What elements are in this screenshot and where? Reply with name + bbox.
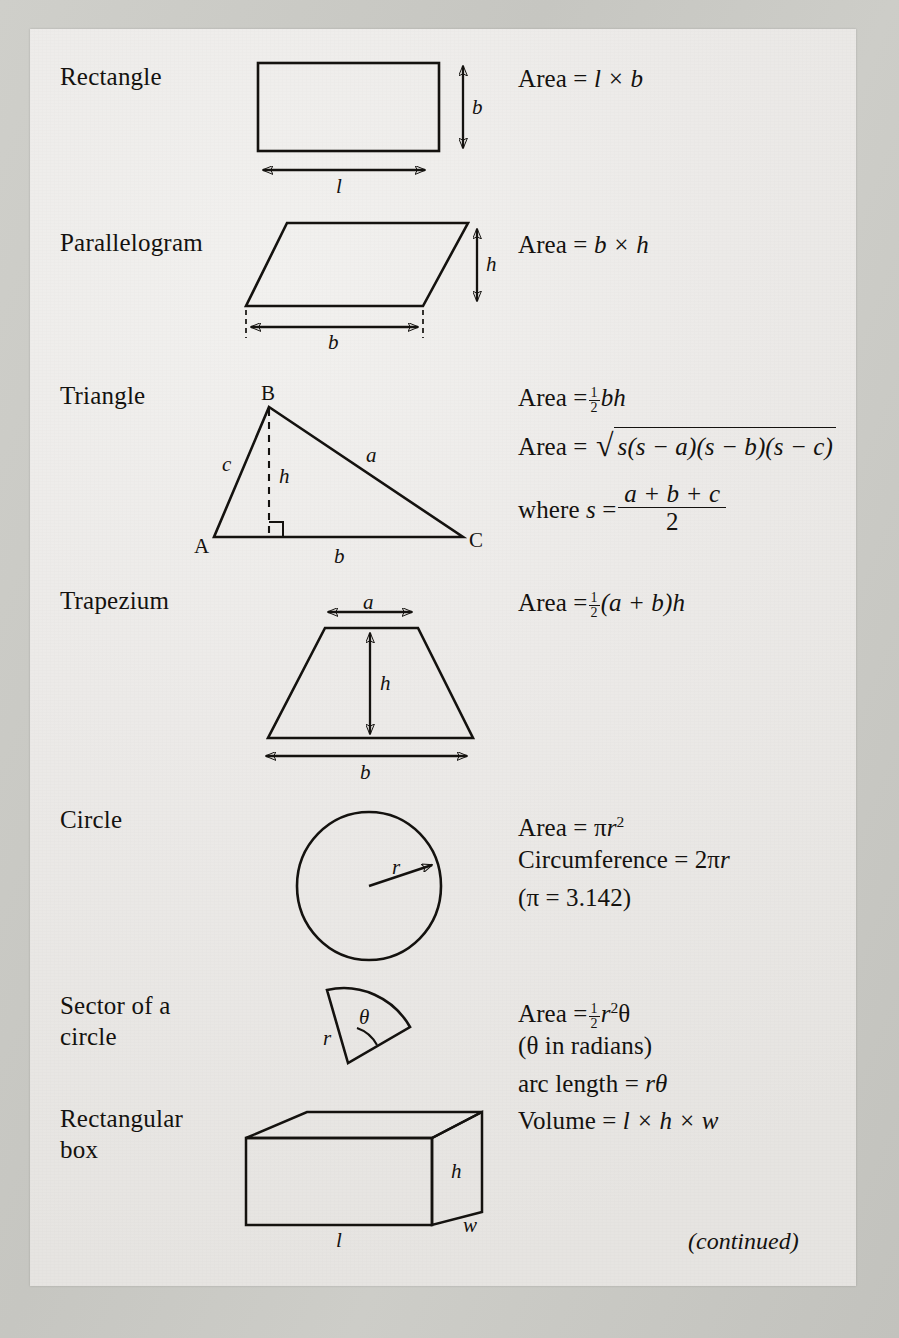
- equals-sign: =: [573, 589, 587, 616]
- formula-sector-radians-note: (θ in radians): [518, 1029, 652, 1063]
- formula-circle-circumference: Circumference = 2πr: [518, 843, 730, 877]
- shape-name-box-line1: Rectangular: [60, 1104, 183, 1134]
- fraction-one-half: 12: [589, 386, 600, 416]
- equals-sign: =: [573, 384, 587, 411]
- equals-sign: =: [573, 433, 587, 460]
- shape-name-box-line2: box: [60, 1135, 98, 1165]
- shape-name-circle: Circle: [60, 805, 122, 835]
- dimension-label-h: h: [486, 252, 497, 277]
- dimension-label-h: h: [380, 671, 391, 696]
- term-minus-c: − c): [790, 433, 833, 460]
- expr-b-times-h: b × h: [594, 231, 649, 258]
- printed-page: [30, 29, 856, 1286]
- dimension-label-l: l: [336, 1228, 342, 1253]
- equals-sign: =: [573, 1000, 587, 1027]
- dimension-label-w: w: [463, 1213, 477, 1238]
- formula-triangle-area-heron: Area = √s(s − a)(s − b)(s − c): [518, 427, 836, 464]
- equals-sign: =: [573, 231, 587, 258]
- dimension-label-b: b: [360, 760, 371, 785]
- formula-triangle-semiperimeter: where s =a + b + c2: [518, 480, 728, 535]
- numeral-two: 2: [695, 846, 708, 873]
- expr-l-h-w: l × h × w: [623, 1107, 719, 1134]
- fraction-denominator: 2: [589, 400, 600, 415]
- radical-icon: √: [596, 428, 614, 462]
- formula-lead: Volume: [518, 1107, 596, 1134]
- term-minus-a: − a)(s: [652, 433, 715, 460]
- shape-name-trapezium: Trapezium: [60, 586, 169, 616]
- exponent-two: 2: [616, 813, 624, 830]
- formula-lead: Area: [518, 384, 567, 411]
- formula-sector-arc-length: arc length = rθ: [518, 1067, 667, 1101]
- formula-circle-area: Area = πr2: [518, 805, 624, 845]
- square-root-group: √s(s − a)(s − b)(s − c): [594, 427, 836, 464]
- variable-r: r: [607, 814, 617, 841]
- shape-name-parallelogram: Parallelogram: [60, 228, 203, 258]
- term-s-open: s(s: [618, 433, 646, 460]
- expr-a-plus-b-h: (a + b)h: [601, 589, 685, 616]
- fraction-one-half: 12: [589, 1002, 600, 1032]
- expr-r-theta: rθ: [645, 1070, 667, 1097]
- dimension-label-a: a: [363, 590, 374, 615]
- vertex-label-c: C: [469, 528, 483, 553]
- equals-sign: =: [625, 1070, 639, 1097]
- equals-sign: =: [602, 1107, 616, 1134]
- shape-name-rectangle: Rectangle: [60, 62, 162, 92]
- formula-trapezium-area: Area =12(a + b)h: [518, 586, 685, 620]
- side-label-a: a: [366, 443, 377, 468]
- fraction-numerator: 1: [589, 1002, 600, 1016]
- radicand: s(s − a)(s − b)(s − c): [614, 427, 836, 464]
- shape-name-triangle: Triangle: [60, 381, 145, 411]
- variable-r: r: [720, 846, 730, 873]
- equals-sign: =: [573, 65, 587, 92]
- fraction-numerator: a + b + c: [618, 480, 726, 507]
- formula-lead: Area: [518, 589, 567, 616]
- side-label-b: b: [334, 544, 345, 569]
- continued-note: (continued): [688, 1228, 799, 1255]
- fraction-one-half: 12: [589, 591, 600, 621]
- pi-symbol: π: [594, 814, 607, 841]
- fraction-numerator: 1: [589, 386, 600, 400]
- vertex-label-b: B: [261, 381, 275, 406]
- formula-lead: Circumference: [518, 846, 668, 873]
- formula-rectangle-area: Area = l × b: [518, 62, 643, 96]
- shape-name-sector-line2: circle: [60, 1022, 117, 1052]
- fraction-semiperimeter: a + b + c2: [618, 480, 726, 535]
- expr-bh: bh: [601, 384, 626, 411]
- dimension-label-b: b: [328, 330, 339, 355]
- dimension-label-l: l: [336, 174, 342, 199]
- altitude-label-h: h: [279, 464, 290, 489]
- radius-label-r: r: [323, 1026, 331, 1051]
- angle-label-theta: θ: [359, 1005, 369, 1030]
- formula-lead: Area: [518, 433, 567, 460]
- formula-parallelogram-area: Area = b × h: [518, 228, 649, 262]
- formula-triangle-area-base-height: Area =12bh: [518, 381, 626, 415]
- formula-lead: Area: [518, 65, 567, 92]
- radius-label-r: r: [392, 855, 400, 880]
- variable-s: s: [586, 496, 596, 523]
- equals-sign: =: [602, 496, 616, 523]
- fraction-numerator: 1: [589, 591, 600, 605]
- equals-sign: =: [573, 814, 587, 841]
- formula-pi-value: (π = 3.142): [518, 881, 631, 915]
- variable-r: r: [601, 1000, 611, 1027]
- equals-sign: =: [674, 846, 688, 873]
- formula-box-volume: Volume = l × h × w: [518, 1104, 719, 1138]
- expr-l-times-b: l × b: [594, 65, 643, 92]
- dimension-label-h: h: [451, 1159, 462, 1184]
- formula-lead: Area: [518, 231, 567, 258]
- dimension-label-b: b: [472, 95, 483, 120]
- formula-lead: Area: [518, 814, 567, 841]
- side-label-c: c: [222, 452, 231, 477]
- shape-name-sector-line1: Sector of a: [60, 991, 171, 1021]
- formula-sector-area: Area =12r2θ: [518, 991, 630, 1031]
- vertex-label-a: A: [194, 534, 209, 559]
- formula-lead: arc length: [518, 1070, 618, 1097]
- formula-lead-where: where: [518, 496, 580, 523]
- formula-lead: Area: [518, 1000, 567, 1027]
- paper-grain: [30, 29, 856, 1286]
- theta-symbol: θ: [618, 1000, 630, 1027]
- term-minus-b: − b)(s: [721, 433, 784, 460]
- expr-two-pi-r: 2πr: [695, 846, 730, 873]
- fraction-denominator: 2: [589, 605, 600, 620]
- fraction-denominator: 2: [618, 507, 726, 535]
